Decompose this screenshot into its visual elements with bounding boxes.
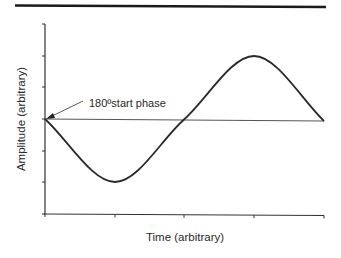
top-rule bbox=[15, 6, 326, 8]
annotation-label: 180ºstart phase bbox=[89, 97, 166, 109]
x-axis-label: Time (arbitrary) bbox=[146, 231, 224, 243]
sine-wave-chart: 180ºstart phase Time (arbitrary) Amplitu… bbox=[0, 0, 341, 258]
annotation-arrow-line bbox=[51, 101, 83, 117]
y-axis-label: Amplitude (arbitrary) bbox=[15, 67, 27, 171]
arrow-head-icon bbox=[46, 113, 55, 119]
